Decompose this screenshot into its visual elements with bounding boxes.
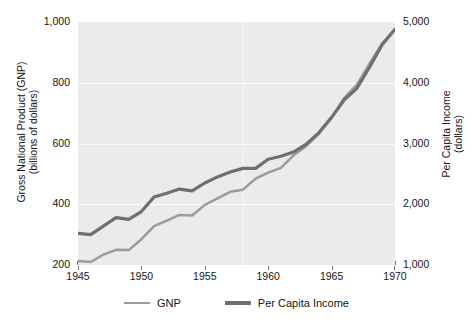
y-axis-right-tick-label: 4,000 <box>403 77 429 88</box>
x-axis-tick-mark <box>78 266 79 270</box>
x-axis-tick-mark <box>394 266 395 270</box>
legend-item[interactable]: Per Capita Income <box>225 297 349 309</box>
y-axis-left-title-line2: (billions of dollars) <box>27 42 39 222</box>
y-axis-right-tick-mark <box>395 261 396 265</box>
x-axis-tick-label: 1965 <box>312 271 352 282</box>
legend-label: GNP <box>157 297 181 309</box>
x-axis-tick-label: 1960 <box>248 271 288 282</box>
chart-legend: GNPPer Capita Income <box>0 297 473 309</box>
y-axis-right-title-line2: (dollars) <box>452 44 464 224</box>
x-axis-tick-mark <box>268 266 269 270</box>
y-axis-left-title: Gross National Product (GNP) (billions o… <box>15 42 39 222</box>
y-axis-right-title-line1: Per Capita Income <box>440 91 452 178</box>
y-axis-left-tick-label: 1,000 <box>0 16 70 27</box>
x-axis-tick-label: 1950 <box>121 271 161 282</box>
legend-item[interactable]: GNP <box>124 297 181 309</box>
legend-line-icon <box>124 302 150 305</box>
chart-figure: 2004006008001,000 1,0002,0003,0004,0005,… <box>0 0 473 330</box>
y-axis-right-tick-label: 2,000 <box>403 198 429 209</box>
y-axis-left-tick-mark <box>77 261 78 265</box>
y-axis-right-tick-label: 3,000 <box>403 138 429 149</box>
legend-label: Per Capita Income <box>258 297 349 309</box>
plot-area <box>78 22 395 265</box>
x-axis-tick-mark <box>332 266 333 270</box>
line-gnp <box>78 29 395 262</box>
y-axis-left-tick-label: 200 <box>0 259 70 270</box>
line-per-capita-income <box>78 29 395 234</box>
x-axis-tick-mark <box>205 266 206 270</box>
y-axis-left-title-line1: Gross National Product (GNP) <box>15 61 27 202</box>
legend-line-icon <box>225 301 251 305</box>
y-axis-right-tick-label: 5,000 <box>403 16 429 27</box>
x-axis-tick-label: 1955 <box>185 271 225 282</box>
x-axis-tick-label: 1970 <box>375 271 415 282</box>
x-axis-tick-label: 1945 <box>58 271 98 282</box>
x-axis-tick-mark <box>141 266 142 270</box>
y-axis-right-title: Per Capita Income (dollars) <box>440 44 464 224</box>
series-lines <box>78 22 395 265</box>
y-axis-right-tick-label: 1,000 <box>403 259 429 270</box>
